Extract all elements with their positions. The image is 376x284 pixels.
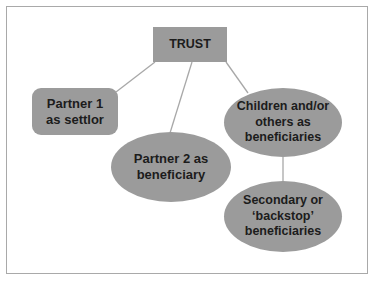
edge-trust-children: [226, 62, 248, 93]
node-secondary-label: Secondary or ‘backstop’ beneficiaries: [243, 193, 323, 240]
node-partner1-settlor: Partner 1 as settlor: [32, 88, 118, 135]
node-partner2-beneficiary: Partner 2 as beneficiary: [111, 132, 231, 202]
node-secondary-beneficiaries: Secondary or ‘backstop’ beneficiaries: [224, 181, 342, 252]
node-trust-label: TRUST: [169, 37, 211, 53]
node-partner2-label: Partner 2 as beneficiary: [134, 151, 208, 183]
node-trust: TRUST: [153, 27, 227, 62]
node-children-beneficiaries: Children and/or others as beneficiaries: [224, 88, 342, 157]
edge-trust-partner2: [170, 62, 192, 133]
node-partner1-label: Partner 1 as settlor: [46, 96, 104, 128]
node-children-label: Children and/or others as beneficiaries: [237, 99, 329, 146]
edge-trust-partner1: [116, 62, 155, 92]
